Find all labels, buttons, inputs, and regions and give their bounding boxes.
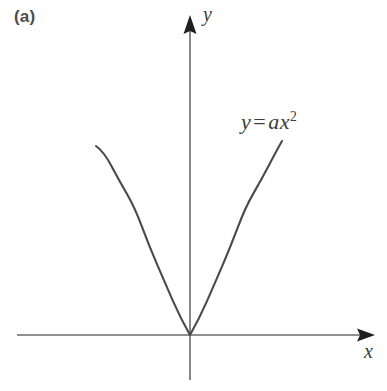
equation-variable: x bbox=[280, 109, 290, 134]
equation-exponent: 2 bbox=[290, 109, 297, 124]
x-axis-label: x bbox=[364, 340, 373, 363]
parabola-curve bbox=[96, 141, 282, 335]
y-axis-label: y bbox=[203, 3, 212, 26]
equation-coefficient: a bbox=[268, 109, 280, 134]
equation-operator: = bbox=[251, 109, 268, 134]
curve-equation-label: y=ax2 bbox=[241, 109, 297, 135]
equation-lhs: y bbox=[241, 109, 251, 134]
parabola-plot bbox=[0, 0, 387, 391]
figure-panel: (a) y x y=ax2 bbox=[0, 0, 387, 391]
